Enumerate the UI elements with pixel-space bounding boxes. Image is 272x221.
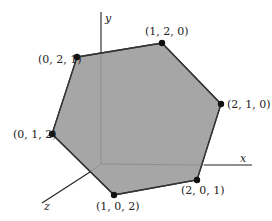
vertex-label: (1, 0, 2) xyxy=(96,200,140,213)
vertex-dot-2-0-1 xyxy=(194,177,200,183)
hexagon-diagram: y x z (0, 2, 1) (1, 2, 0) (2, 1, 0) (2, … xyxy=(0,0,272,221)
axis-label-x: x xyxy=(240,152,247,165)
axis-label-y: y xyxy=(104,12,112,25)
vertex-label: (0, 2, 1) xyxy=(38,53,82,66)
vertex-dot-1-0-2 xyxy=(111,192,117,198)
vertex-dot-2-1-0 xyxy=(218,101,224,107)
vertex-dot-1-2-0 xyxy=(159,40,165,46)
axis-label-z: z xyxy=(43,200,50,213)
vertex-label: (0, 1, 2) xyxy=(13,128,57,141)
z-axis xyxy=(42,172,90,203)
vertex-label: (1, 2, 0) xyxy=(145,25,189,38)
vertex-label: (2, 0, 1) xyxy=(181,184,225,197)
vertex-label: (2, 1, 0) xyxy=(227,98,271,111)
